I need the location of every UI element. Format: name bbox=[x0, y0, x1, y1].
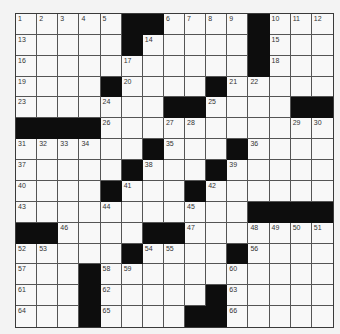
grid-cell[interactable]: 52 bbox=[16, 244, 37, 265]
grid-cell[interactable]: 27 bbox=[164, 118, 185, 139]
grid-cell[interactable] bbox=[58, 285, 79, 306]
grid-cell[interactable]: 62 bbox=[101, 285, 122, 306]
grid-cell[interactable]: 15 bbox=[270, 35, 291, 56]
grid-cell[interactable] bbox=[248, 306, 269, 327]
grid-cell[interactable] bbox=[185, 77, 206, 98]
grid-cell[interactable]: 65 bbox=[101, 306, 122, 327]
grid-cell[interactable] bbox=[185, 160, 206, 181]
grid-cell[interactable] bbox=[101, 160, 122, 181]
grid-cell[interactable]: 43 bbox=[16, 202, 37, 223]
grid-cell[interactable]: 28 bbox=[185, 118, 206, 139]
grid-cell[interactable]: 40 bbox=[16, 181, 37, 202]
grid-cell[interactable]: 23 bbox=[16, 97, 37, 118]
grid-cell[interactable]: 25 bbox=[206, 97, 227, 118]
grid-cell[interactable] bbox=[206, 118, 227, 139]
grid-cell[interactable] bbox=[291, 244, 312, 265]
grid-cell[interactable]: 53 bbox=[37, 244, 58, 265]
grid-cell[interactable] bbox=[185, 56, 206, 77]
grid-cell[interactable] bbox=[37, 181, 58, 202]
grid-cell[interactable] bbox=[206, 202, 227, 223]
grid-cell[interactable]: 26 bbox=[101, 118, 122, 139]
grid-cell[interactable]: 44 bbox=[101, 202, 122, 223]
grid-cell[interactable] bbox=[164, 77, 185, 98]
grid-cell[interactable]: 1 bbox=[16, 14, 37, 35]
grid-cell[interactable] bbox=[291, 160, 312, 181]
grid-cell[interactable] bbox=[58, 56, 79, 77]
grid-cell[interactable] bbox=[143, 77, 164, 98]
grid-cell[interactable]: 55 bbox=[164, 244, 185, 265]
grid-cell[interactable] bbox=[122, 285, 143, 306]
grid-cell[interactable]: 57 bbox=[16, 264, 37, 285]
grid-cell[interactable]: 50 bbox=[291, 223, 312, 244]
grid-cell[interactable]: 5 bbox=[101, 14, 122, 35]
grid-cell[interactable] bbox=[270, 77, 291, 98]
grid-cell[interactable]: 51 bbox=[312, 223, 333, 244]
grid-cell[interactable] bbox=[312, 264, 333, 285]
grid-cell[interactable]: 39 bbox=[227, 160, 248, 181]
grid-cell[interactable] bbox=[291, 35, 312, 56]
grid-cell[interactable] bbox=[227, 202, 248, 223]
grid-cell[interactable] bbox=[79, 202, 100, 223]
grid-cell[interactable] bbox=[58, 35, 79, 56]
grid-cell[interactable] bbox=[270, 285, 291, 306]
grid-cell[interactable] bbox=[58, 264, 79, 285]
grid-cell[interactable] bbox=[37, 264, 58, 285]
grid-cell[interactable] bbox=[58, 77, 79, 98]
grid-cell[interactable]: 16 bbox=[16, 56, 37, 77]
grid-cell[interactable]: 54 bbox=[143, 244, 164, 265]
grid-cell[interactable] bbox=[143, 202, 164, 223]
grid-cell[interactable] bbox=[58, 244, 79, 265]
grid-cell[interactable] bbox=[164, 160, 185, 181]
grid-cell[interactable]: 66 bbox=[227, 306, 248, 327]
grid-cell[interactable] bbox=[206, 264, 227, 285]
grid-cell[interactable]: 24 bbox=[101, 97, 122, 118]
grid-cell[interactable] bbox=[164, 285, 185, 306]
grid-cell[interactable]: 48 bbox=[248, 223, 269, 244]
grid-cell[interactable] bbox=[248, 264, 269, 285]
grid-cell[interactable] bbox=[291, 56, 312, 77]
grid-cell[interactable] bbox=[206, 56, 227, 77]
grid-cell[interactable] bbox=[58, 160, 79, 181]
grid-cell[interactable] bbox=[291, 77, 312, 98]
grid-cell[interactable]: 21 bbox=[227, 77, 248, 98]
grid-cell[interactable]: 18 bbox=[270, 56, 291, 77]
grid-cell[interactable] bbox=[185, 139, 206, 160]
grid-cell[interactable]: 49 bbox=[270, 223, 291, 244]
grid-cell[interactable] bbox=[227, 35, 248, 56]
grid-cell[interactable] bbox=[227, 118, 248, 139]
grid-cell[interactable] bbox=[312, 181, 333, 202]
grid-cell[interactable] bbox=[37, 285, 58, 306]
grid-cell[interactable]: 17 bbox=[122, 56, 143, 77]
grid-cell[interactable] bbox=[164, 264, 185, 285]
grid-cell[interactable] bbox=[122, 223, 143, 244]
grid-cell[interactable] bbox=[143, 97, 164, 118]
grid-cell[interactable]: 56 bbox=[248, 244, 269, 265]
grid-cell[interactable]: 64 bbox=[16, 306, 37, 327]
grid-cell[interactable]: 4 bbox=[79, 14, 100, 35]
grid-cell[interactable] bbox=[227, 181, 248, 202]
grid-cell[interactable] bbox=[79, 97, 100, 118]
grid-cell[interactable]: 12 bbox=[312, 14, 333, 35]
grid-cell[interactable] bbox=[79, 160, 100, 181]
grid-cell[interactable] bbox=[37, 160, 58, 181]
grid-cell[interactable]: 37 bbox=[16, 160, 37, 181]
grid-cell[interactable]: 38 bbox=[143, 160, 164, 181]
grid-cell[interactable] bbox=[37, 35, 58, 56]
grid-cell[interactable] bbox=[58, 202, 79, 223]
grid-cell[interactable] bbox=[291, 139, 312, 160]
grid-cell[interactable]: 35 bbox=[164, 139, 185, 160]
grid-cell[interactable] bbox=[185, 244, 206, 265]
grid-cell[interactable] bbox=[164, 181, 185, 202]
grid-cell[interactable] bbox=[79, 244, 100, 265]
grid-cell[interactable]: 63 bbox=[227, 285, 248, 306]
grid-cell[interactable] bbox=[164, 56, 185, 77]
grid-cell[interactable] bbox=[79, 77, 100, 98]
grid-cell[interactable]: 33 bbox=[58, 139, 79, 160]
grid-cell[interactable] bbox=[270, 118, 291, 139]
grid-cell[interactable] bbox=[206, 139, 227, 160]
grid-cell[interactable]: 22 bbox=[248, 77, 269, 98]
grid-cell[interactable] bbox=[206, 244, 227, 265]
grid-cell[interactable]: 3 bbox=[58, 14, 79, 35]
grid-cell[interactable] bbox=[122, 97, 143, 118]
grid-cell[interactable] bbox=[101, 244, 122, 265]
